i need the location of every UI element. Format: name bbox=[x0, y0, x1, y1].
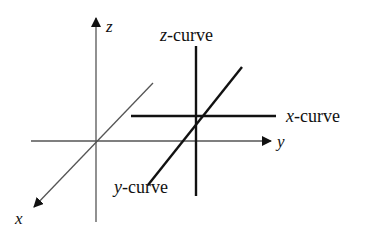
coordinate-curves-diagram: z y x z-curve x-curve y-curve bbox=[0, 0, 376, 234]
z-curve-label: z-curve bbox=[159, 25, 213, 45]
z-axis-label: z bbox=[105, 17, 113, 36]
x-curve-label: x-curve bbox=[285, 106, 340, 126]
x-axis-label: x bbox=[14, 209, 23, 228]
y-axis-label: y bbox=[275, 132, 285, 151]
y-curve-label: y-curve bbox=[112, 177, 168, 197]
